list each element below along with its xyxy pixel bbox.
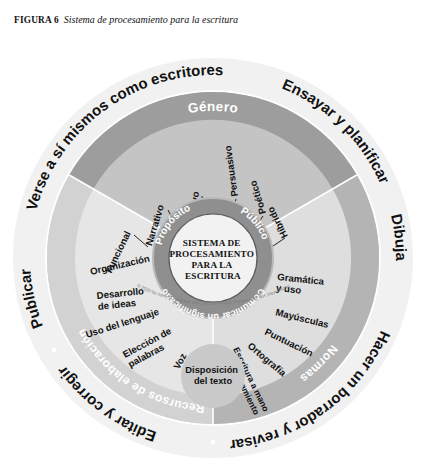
figure-title: Sistema de procesamiento para la escritu… bbox=[64, 14, 238, 25]
core-line-2: PROCESAMIENTO bbox=[169, 249, 254, 259]
figure-number: FIGURA 6 bbox=[14, 15, 59, 25]
band-label-genero: Género bbox=[187, 99, 239, 116]
writing-process-wheel: Género Normas Recursos de elaboración Fu… bbox=[0, 44, 425, 473]
core-line-3: PARA LA bbox=[192, 260, 233, 270]
wheel-svg: Género Normas Recursos de elaboración Fu… bbox=[0, 44, 425, 473]
core-line-4: ESCRITURA bbox=[185, 271, 241, 281]
bubble-line-2: del texto bbox=[194, 376, 233, 386]
bubble-line-1: Disposición bbox=[185, 365, 238, 375]
core-line-1: SISTEMA DE bbox=[183, 238, 241, 248]
figure-caption: FIGURA 6Sistema de procesamiento para la… bbox=[14, 14, 415, 26]
